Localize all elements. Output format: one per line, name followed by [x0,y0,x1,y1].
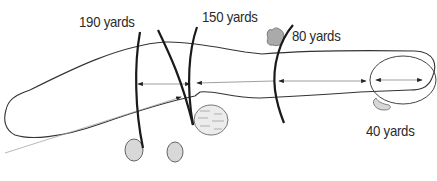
water-hazard [194,105,228,135]
marker-150-a [158,30,193,125]
label-80-yards: 80 yards [292,28,341,43]
bunker-greenside [373,98,390,110]
distance-arrow-2 [197,81,274,83]
bunker-left-2 [167,142,183,162]
diagram-canvas [0,0,437,181]
bunker-left-1 [125,139,143,161]
golf-hole-diagram: 190 yards 150 yards 80 yards 40 yards [0,0,437,181]
marker-190 [136,32,143,148]
label-40-yards: 40 yards [366,123,415,138]
label-190-yards: 190 yards [79,14,135,29]
label-150-yards: 150 yards [202,9,258,24]
shot-line [5,97,181,153]
marker-150-b [189,27,197,125]
